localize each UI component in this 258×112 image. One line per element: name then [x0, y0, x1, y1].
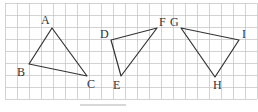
vertex-label-d: D	[100, 27, 109, 41]
vertex-label-c: C	[87, 77, 95, 91]
triangle-ghi: GHI	[170, 15, 246, 92]
triangle-def: DEF	[100, 15, 166, 92]
triangle-ghi-outline	[181, 28, 239, 77]
grid-figure: ABCDEFGHI	[0, 0, 258, 112]
vertex-label-b: B	[17, 65, 25, 79]
triangle-def-outline	[111, 28, 157, 76]
triangles: ABCDEFGHI	[17, 13, 246, 92]
triangle-abc-outline	[29, 28, 87, 76]
vertex-label-i: I	[242, 27, 246, 41]
vertex-label-a: A	[41, 13, 50, 27]
vertex-label-e: E	[113, 78, 120, 92]
bottom-bar	[80, 104, 126, 106]
vertex-label-f: F	[159, 15, 166, 29]
vertex-label-g: G	[170, 15, 179, 29]
triangle-abc: ABC	[17, 13, 95, 91]
vertex-label-h: H	[213, 78, 222, 92]
